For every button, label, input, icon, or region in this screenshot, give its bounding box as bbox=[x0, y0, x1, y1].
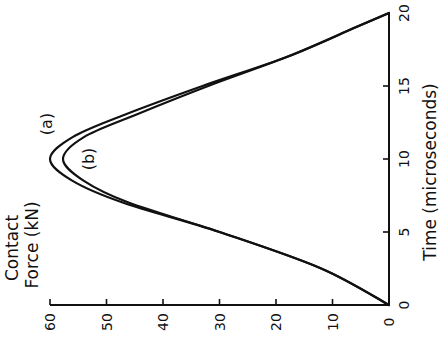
force-tick-label: 30 bbox=[212, 313, 228, 331]
time-axis-title: Time (microseconds) bbox=[420, 83, 440, 261]
time-tick-label: 15 bbox=[396, 77, 412, 95]
time-tick-label: 20 bbox=[396, 4, 412, 22]
force-tick-label: 20 bbox=[268, 313, 284, 331]
force-axis-ticks: 0102030405060 bbox=[42, 299, 397, 331]
series-a-label: (a) bbox=[37, 113, 56, 135]
force-axis-title-line1: Contact bbox=[2, 215, 22, 281]
force-tick-label: 60 bbox=[42, 313, 58, 331]
time-tick-label: 5 bbox=[396, 228, 412, 237]
force-tick-label: 10 bbox=[325, 313, 341, 331]
contact-force-chart: 0102030405060 05101520 (a) (b) Contact F… bbox=[0, 0, 448, 357]
time-tick-label: 0 bbox=[396, 301, 412, 310]
series-b-curve bbox=[63, 13, 389, 305]
series-a-curve bbox=[50, 13, 389, 305]
force-tick-label: 0 bbox=[381, 318, 397, 327]
time-axis-ticks: 05101520 bbox=[383, 4, 412, 309]
time-tick-label: 10 bbox=[396, 150, 412, 168]
force-axis-title-line2: Force (kN) bbox=[22, 201, 42, 288]
force-tick-label: 50 bbox=[99, 313, 115, 331]
force-tick-label: 40 bbox=[155, 313, 171, 331]
series-b-label: (b) bbox=[79, 148, 98, 171]
